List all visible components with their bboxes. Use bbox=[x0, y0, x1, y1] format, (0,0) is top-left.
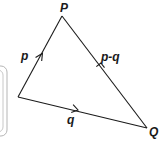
label-vector-p-minus-q: p-q bbox=[100, 50, 120, 64]
vector-triangle-diagram: P Q p q p-q bbox=[0, 0, 168, 143]
label-vertex-Q: Q bbox=[149, 125, 159, 139]
left-frame-inner bbox=[0, 70, 3, 132]
label-vector-p: p bbox=[20, 49, 28, 63]
label-vector-q: q bbox=[67, 113, 75, 127]
label-vertex-P: P bbox=[60, 1, 69, 15]
